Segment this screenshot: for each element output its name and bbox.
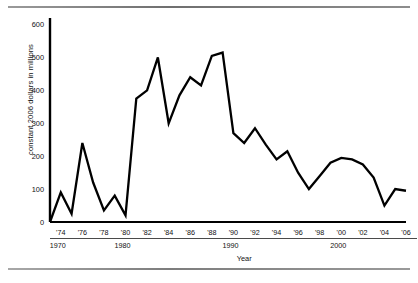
x-tick-label: '00 xyxy=(330,228,352,237)
y-tick-label: 600 xyxy=(20,20,44,29)
x-tick-label: '94 xyxy=(266,228,288,237)
x-tick-label: '84 xyxy=(158,228,180,237)
x-tick-label: '06 xyxy=(395,228,417,237)
decade-label: 1980 xyxy=(115,241,155,250)
data-series-line xyxy=(50,53,406,222)
decade-underline xyxy=(222,238,341,239)
x-tick-label: '02 xyxy=(352,228,374,237)
x-tick-label: '76 xyxy=(71,228,93,237)
x-tick-label: '90 xyxy=(222,228,244,237)
axis-lines xyxy=(50,18,406,222)
decade-label: 1970 xyxy=(50,241,90,250)
x-axis-title: Year xyxy=(214,254,274,263)
decade-label: 1990 xyxy=(222,241,262,250)
x-tick-label: '86 xyxy=(179,228,201,237)
decade-underline xyxy=(330,238,417,239)
x-tick-label: '92 xyxy=(244,228,266,237)
x-tick-label: '96 xyxy=(287,228,309,237)
x-tick-label: '80 xyxy=(115,228,137,237)
x-tick-label: '98 xyxy=(309,228,331,237)
x-tick-label: '04 xyxy=(373,228,395,237)
x-tick-label: '88 xyxy=(201,228,223,237)
y-tick-label: 500 xyxy=(20,53,44,62)
x-tick-label: '74 xyxy=(50,228,72,237)
y-tick-label: 0 xyxy=(20,218,44,227)
y-tick-label: 400 xyxy=(20,86,44,95)
y-tick-label: 300 xyxy=(20,119,44,128)
figure-root: constant 2006 dollars in millions 010020… xyxy=(0,0,418,283)
y-tick-label: 100 xyxy=(20,185,44,194)
x-tick-label: '78 xyxy=(93,228,115,237)
x-tick-label: '82 xyxy=(136,228,158,237)
y-tick-label: 200 xyxy=(20,152,44,161)
decade-underline xyxy=(115,238,234,239)
decade-label: 2000 xyxy=(330,241,370,250)
